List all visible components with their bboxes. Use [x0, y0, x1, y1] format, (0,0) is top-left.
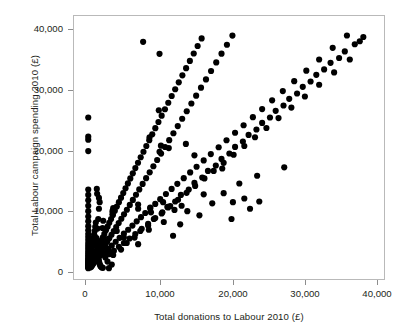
x-tick-mark	[85, 280, 86, 285]
x-tick-mark	[305, 280, 306, 285]
y-tick-label: 20,000	[34, 146, 63, 156]
scatter-chart: Total Labour campaign spending 2010 (£) …	[0, 0, 410, 333]
x-tick-label: 0	[55, 289, 115, 299]
plot-area	[73, 15, 385, 280]
y-tick-label: 10,000	[34, 206, 63, 216]
x-tick-mark	[377, 280, 378, 285]
x-tick-mark	[160, 280, 161, 285]
y-tick-label: 40,000	[34, 24, 63, 34]
data-points-layer	[74, 16, 384, 279]
x-tick-label: 30,000	[275, 289, 335, 299]
x-tick-mark	[233, 280, 234, 285]
y-tick-label: 30,000	[34, 85, 63, 95]
x-axis-label: Total donations to Labour 2010 (£)	[73, 311, 385, 322]
y-tick-label: 0	[58, 267, 63, 277]
x-tick-label: 20,000	[203, 289, 263, 299]
x-tick-label: 40,000	[347, 289, 407, 299]
x-tick-label: 10,000	[130, 289, 190, 299]
